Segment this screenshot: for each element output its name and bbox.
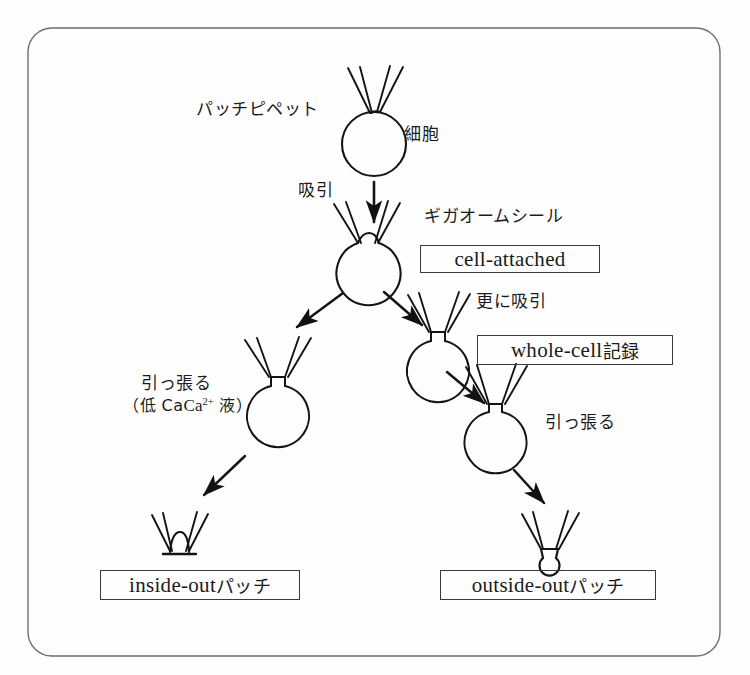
label-cell: 細胞	[404, 125, 439, 145]
box-whole-cell-latin: whole-cell	[511, 338, 603, 363]
box-inside-out: inside-out パッチ	[100, 570, 300, 600]
label-low-ca-solution: （低 CaCa2+ 液）	[123, 396, 252, 416]
box-outside-out: outside-out パッチ	[440, 570, 656, 600]
low-ca-element: Ca	[184, 396, 203, 415]
label-pull-right: 引っ張る	[545, 413, 615, 433]
stage-pulled-cell	[465, 364, 528, 473]
figure-container: パッチピペット 細胞 吸引 ギガオームシール 更に吸引 引っ張る （低 CaCa…	[0, 0, 750, 675]
box-whole-cell: whole-cell 記録	[477, 335, 673, 365]
cell-body	[342, 112, 406, 176]
label-further-suction: 更に吸引	[476, 292, 546, 312]
arrow-to-vesicle	[297, 293, 343, 327]
arrow-to-outside-out	[514, 470, 544, 503]
label-giga-ohm-seal: ギガオームシール	[424, 207, 563, 227]
label-suction: 吸引	[298, 181, 333, 201]
box-outside-out-latin: outside-out	[472, 573, 570, 598]
arrow-to-inside-out	[204, 456, 245, 495]
box-cell-attached: cell-attached	[420, 245, 600, 273]
stage-inside-out	[152, 512, 208, 554]
box-outside-out-jp: パッチ	[569, 572, 624, 598]
stage-outside-out	[522, 511, 579, 576]
stage-cell-attached	[334, 201, 401, 305]
box-inside-out-jp: パッチ	[216, 572, 271, 598]
label-patch-pipette: パッチピペット	[196, 100, 319, 120]
stage-whole-cell	[407, 292, 470, 402]
low-ca-charge: 2+	[202, 396, 213, 407]
stage-intact-cell	[342, 66, 406, 176]
stage-vesicle-left	[245, 337, 311, 447]
box-inside-out-latin: inside-out	[129, 573, 216, 598]
low-ca-suffix: 液）	[214, 396, 253, 415]
low-ca-prefix: （低 Ca	[123, 396, 184, 415]
box-cell-attached-text: cell-attached	[454, 247, 565, 272]
label-pull-left: 引っ張る	[141, 374, 211, 394]
box-whole-cell-jp: 記録	[603, 337, 640, 363]
